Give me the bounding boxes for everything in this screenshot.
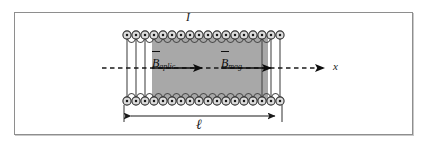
current-label: I [186,11,190,23]
b-applied-vector-bar [152,51,160,52]
b-magnetization-subscript: mag [228,62,242,71]
length-label: ℓ [196,118,202,132]
b-applied-label: Baplic [152,54,175,71]
solenoid-figure: I x ℓ Baplic Bmag [0,0,429,147]
diagram-canvas [0,0,429,147]
b-magnetization-symbol: B [221,56,228,70]
length-dimension [124,105,282,122]
b-applied-subscript: aplic [159,62,175,71]
b-magnetization-vector-bar [221,51,229,52]
b-applied-symbol: B [152,56,159,70]
b-magnetization-label: Bmag [221,54,242,71]
x-axis-label: x [333,61,338,72]
